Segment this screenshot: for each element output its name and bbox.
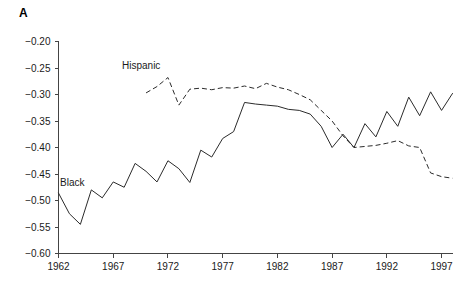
y-tick-label: −0.20	[25, 36, 51, 47]
y-tick-label: −0.45	[25, 169, 51, 180]
y-tick-label: −0.25	[25, 63, 51, 74]
series-line-black	[59, 92, 453, 225]
y-tick-label: −0.60	[25, 248, 51, 259]
series-label-hispanic: Hispanic	[122, 60, 160, 71]
y-tick-label: −0.50	[25, 195, 51, 206]
x-tick-label: 1992	[376, 261, 399, 272]
x-tick-label: 1972	[157, 261, 180, 272]
data-series-group	[59, 78, 453, 225]
x-tick-label: 1977	[212, 261, 235, 272]
x-tick-label: 1967	[102, 261, 125, 272]
x-tick-label: 1982	[266, 261, 289, 272]
figure-panel-a: A −0.20−0.25−0.30−0.35−0.40−0.45−0.50−0.…	[0, 0, 470, 281]
series-annotations: BlackHispanic	[60, 60, 160, 188]
y-axis-tick-labels: −0.20−0.25−0.30−0.35−0.40−0.45−0.50−0.55…	[25, 36, 51, 259]
series-line-hispanic	[146, 78, 452, 179]
y-tick-label: −0.35	[25, 116, 51, 127]
chart-axes	[59, 42, 453, 254]
x-tick-label: 1997	[430, 261, 453, 272]
x-tick-label: 1962	[47, 261, 70, 272]
line-chart: −0.20−0.25−0.30−0.35−0.40−0.45−0.50−0.55…	[0, 0, 470, 281]
x-axis-tick-labels: 19621967197219771982198719921997	[47, 261, 453, 272]
axis-ticks	[55, 42, 442, 258]
y-tick-label: −0.55	[25, 222, 51, 233]
y-tick-label: −0.30	[25, 89, 51, 100]
x-tick-label: 1987	[321, 261, 344, 272]
y-tick-label: −0.40	[25, 142, 51, 153]
series-label-black: Black	[60, 177, 85, 188]
